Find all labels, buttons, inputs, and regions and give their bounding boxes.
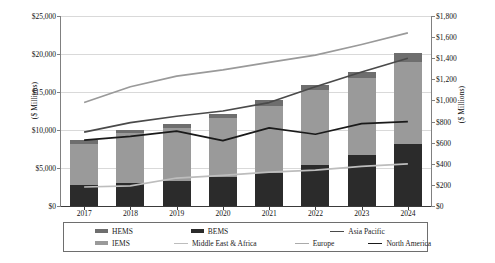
legend-label: BEMS (208, 227, 228, 236)
y-tick-label-left: $15,000 (32, 88, 56, 97)
y-tick-label-right: $1,400 (436, 54, 457, 63)
x-tick-label: 2017 (77, 209, 92, 218)
y-tick-mark-left (57, 206, 61, 207)
x-tick-mark (362, 206, 363, 210)
y-tick-mark-right (431, 79, 435, 80)
line-series-layer (61, 16, 431, 206)
plot-area: $0$5,000$10,000$15,000$20,000$25,000 $0$… (60, 16, 432, 207)
y-tick-mark-right (431, 16, 435, 17)
y-tick-label-left: $10,000 (32, 126, 56, 135)
legend-swatch-bar (191, 229, 204, 233)
y-tick-mark-right (431, 164, 435, 165)
y-tick-label-right: $1,600 (436, 33, 457, 42)
x-tick-mark (177, 206, 178, 210)
x-tick-label: 2021 (262, 209, 277, 218)
y-tick-mark-right (431, 37, 435, 38)
legend-label: IEMS (112, 239, 130, 248)
y-tick-label-left: $5,000 (35, 164, 56, 173)
y-tick-label-right: $1,800 (436, 12, 457, 21)
legend-swatch-line (174, 243, 188, 244)
legend-row-2: IEMSMiddle East & AfricaEuropeNorth Amer… (67, 237, 424, 249)
y-tick-mark-right (431, 185, 435, 186)
legend-label: HEMS (112, 227, 133, 236)
legend-swatch-bar (95, 229, 108, 233)
line-europe (84, 58, 408, 132)
y-tick-label-right: $800 (436, 117, 451, 126)
chart-legend: HEMSBEMSAsia Pacific IEMSMiddle East & A… (63, 222, 428, 252)
y-tick-label-left: $20,000 (32, 50, 56, 59)
legend-item[interactable]: North America (368, 239, 431, 248)
legend-label: Europe (313, 239, 335, 248)
legend-swatch-bar (95, 241, 108, 245)
x-tick-mark (269, 206, 270, 210)
y-tick-label-left: $25,000 (32, 12, 56, 21)
legend-swatch-line (368, 243, 382, 244)
legend-item[interactable]: Middle East & Africa (174, 239, 257, 248)
y-tick-label-right: $0 (436, 202, 444, 211)
x-tick-label: 2019 (169, 209, 184, 218)
legend-item[interactable]: BEMS (191, 227, 228, 236)
y-tick-mark-right (431, 100, 435, 101)
y-tick-label-right: $400 (436, 159, 451, 168)
legend-label: Asia Pacific (348, 227, 384, 236)
line-middle-east-africa (84, 164, 408, 187)
x-tick-label: 2024 (400, 209, 415, 218)
legend-item[interactable]: IEMS (95, 239, 130, 248)
legend-swatch-line (330, 231, 344, 232)
line-asia-pacific (84, 33, 408, 103)
y-tick-label-right: $1,000 (436, 96, 457, 105)
legend-item[interactable]: Asia Pacific (330, 227, 384, 236)
y-tick-label-right: $600 (436, 138, 451, 147)
legend-item[interactable]: HEMS (95, 227, 133, 236)
x-tick-label: 2018 (123, 209, 138, 218)
x-tick-mark (223, 206, 224, 210)
y-tick-mark-right (431, 58, 435, 59)
y-tick-label-right: $200 (436, 180, 451, 189)
x-tick-mark (84, 206, 85, 210)
x-tick-label: 2023 (354, 209, 369, 218)
y-tick-mark-right (431, 206, 435, 207)
line-north-america (84, 122, 408, 141)
legend-item[interactable]: Europe (295, 239, 335, 248)
x-tick-mark (315, 206, 316, 210)
x-tick-label: 2020 (215, 209, 230, 218)
legend-label: Middle East & Africa (192, 239, 257, 248)
x-tick-mark (130, 206, 131, 210)
y-tick-mark-right (431, 122, 435, 123)
x-tick-label: 2022 (308, 209, 323, 218)
y-tick-label-left: $0 (49, 202, 57, 211)
x-tick-mark (408, 206, 409, 210)
legend-row-1: HEMSBEMSAsia Pacific (67, 225, 424, 237)
y-axis-title-right: ($ Millions) (457, 70, 466, 140)
y-tick-label-right: $1,200 (436, 75, 457, 84)
chart-container: ($ Millions) ($ Millions) $0$5,000$10,00… (0, 0, 495, 263)
legend-label: North America (386, 239, 431, 248)
y-tick-mark-right (431, 143, 435, 144)
legend-swatch-line (295, 243, 309, 244)
